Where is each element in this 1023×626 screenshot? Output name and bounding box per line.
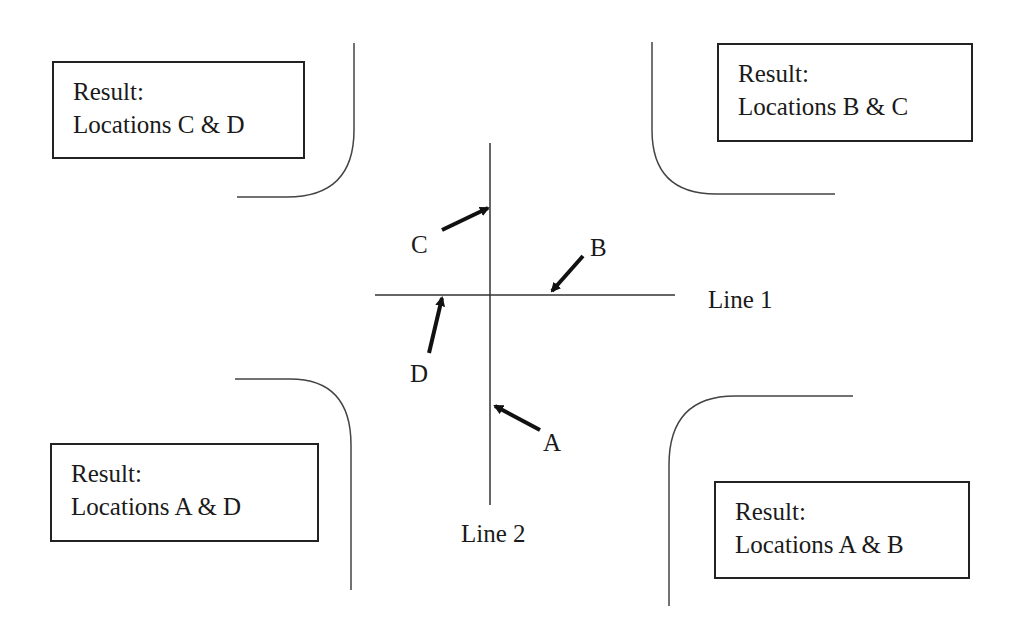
result-heading: Result: <box>73 75 303 108</box>
arrow-a-icon <box>495 406 540 430</box>
result-heading: Result: <box>735 495 968 528</box>
line-2-label: Line 2 <box>461 521 526 546</box>
result-text: Locations C & D <box>73 108 303 141</box>
arrow-d-icon <box>429 298 442 353</box>
location-c-label: C <box>411 232 428 257</box>
result-box-top-right: Result: Locations B & C <box>717 43 973 142</box>
result-text: Locations B & C <box>738 90 971 123</box>
arrow-c-icon <box>442 208 488 230</box>
result-box-bottom-left: Result: Locations A & D <box>50 443 319 542</box>
arrow-b-icon <box>552 256 583 291</box>
result-box-bottom-right: Result: Locations A & B <box>714 481 970 579</box>
result-box-top-left: Result: Locations C & D <box>52 61 305 159</box>
location-a-label: A <box>543 430 561 455</box>
result-text: Locations A & B <box>735 528 968 561</box>
result-text: Locations A & D <box>71 490 317 523</box>
result-heading: Result: <box>71 457 317 490</box>
location-b-label: B <box>590 235 607 260</box>
location-d-label: D <box>410 361 428 386</box>
line-1-label: Line 1 <box>708 287 773 312</box>
result-heading: Result: <box>738 57 971 90</box>
